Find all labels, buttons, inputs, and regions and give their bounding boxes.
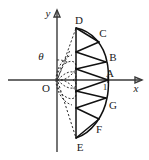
spoke-to-A xyxy=(76,69,108,80)
point-label-B: B xyxy=(109,51,116,63)
dashed-radius-to-E xyxy=(58,82,76,138)
dashed-cardioid-lower xyxy=(57,80,76,99)
theta-angle-label: θ xyxy=(38,50,44,62)
spoke-B-to-chord xyxy=(76,62,106,69)
axes-group xyxy=(8,10,142,152)
point-label-C: C xyxy=(99,27,106,39)
figure-root: A B C D E F G y x O θ 1 xyxy=(0,0,149,160)
dashed-loop-inner-b xyxy=(58,80,76,88)
point-label-E: E xyxy=(77,141,84,153)
x-axis-tick-label-1: 1 xyxy=(103,82,108,92)
spoke-C-to-chord xyxy=(76,42,99,52)
spoke-to-C xyxy=(76,28,99,42)
dashed-radii-group xyxy=(57,28,76,138)
point-label-D: D xyxy=(75,14,83,26)
dashed-loop-inner-a xyxy=(58,72,76,80)
y-axis-label: y xyxy=(45,7,51,19)
dashed-cardioid-upper xyxy=(57,61,76,80)
origin-label: O xyxy=(42,82,50,94)
spoke-G-to-chord xyxy=(76,98,106,108)
spoke-to-G xyxy=(76,91,106,98)
point-label-A: A xyxy=(106,67,114,79)
polar-geometry-diagram: A B C D E F G y x O θ 1 xyxy=(0,0,149,160)
point-label-G: G xyxy=(109,99,117,111)
spoke-to-B xyxy=(76,52,106,62)
point-label-F: F xyxy=(96,123,102,135)
spoke-to-F xyxy=(76,108,99,119)
x-axis-label: x xyxy=(133,82,139,94)
